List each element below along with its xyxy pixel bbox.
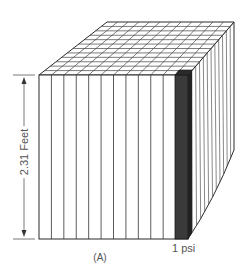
- psi-label: 1 psi: [172, 242, 195, 254]
- dimension-label: 2.31 Feet: [18, 126, 30, 178]
- arrow-up-icon: [22, 77, 27, 84]
- one-psi-column: [175, 70, 192, 239]
- arrow-down-icon: [22, 230, 27, 237]
- cube-drawing: [0, 0, 250, 266]
- figure-caption: (A): [93, 252, 106, 263]
- cube-front-face: [39, 75, 188, 239]
- water-column-cube-diagram: 2.31 Feet 1 psi (A): [0, 0, 250, 266]
